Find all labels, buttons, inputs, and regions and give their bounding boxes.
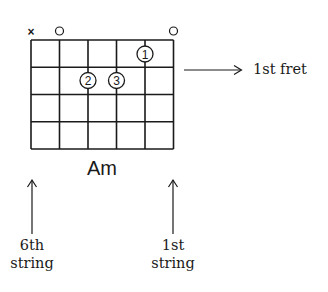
finger-1-label: 1 (142, 48, 149, 62)
finger-3-marker: 3 (109, 73, 125, 89)
muted-marker-string-6: × (27, 25, 34, 39)
open-marker-string-1 (170, 27, 178, 35)
fret-arrow (184, 66, 242, 75)
finger-2-marker: 2 (80, 73, 96, 89)
chord-name: Am (87, 157, 117, 179)
open-marker-string-5 (56, 27, 64, 35)
finger-1-marker: 1 (137, 46, 153, 62)
fret-label: 1st fret (253, 61, 307, 77)
sixth-string-label-line1: 6th (20, 237, 44, 253)
sixth-string-label-line2: string (10, 255, 53, 271)
chord-diagram: × 1 2 3 Am 1st fret (0, 0, 328, 292)
finger-2-label: 2 (85, 74, 92, 88)
first-string-label-line2: string (151, 255, 194, 271)
finger-3-label: 3 (113, 74, 120, 88)
first-string-arrow (169, 180, 178, 234)
string-markers: × (27, 25, 177, 39)
first-string-label-line1: 1st (162, 237, 185, 253)
sixth-string-arrow (28, 180, 37, 234)
